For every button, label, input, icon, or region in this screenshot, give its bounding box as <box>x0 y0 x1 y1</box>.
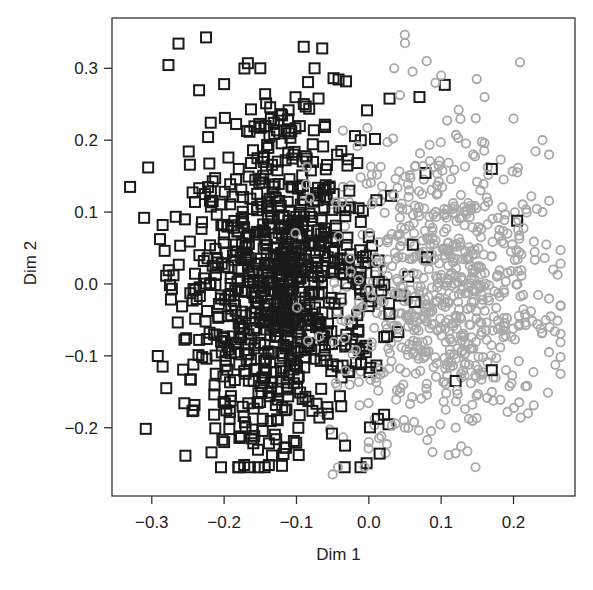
square-marker <box>160 246 170 256</box>
square-marker <box>295 410 305 420</box>
circle-marker <box>387 357 395 365</box>
square-marker <box>206 118 216 128</box>
square-marker <box>184 146 194 156</box>
circle-marker <box>355 378 363 386</box>
square-marker <box>190 197 200 207</box>
circle-marker <box>443 116 451 124</box>
square-marker <box>210 423 220 433</box>
circle-marker <box>457 191 465 199</box>
square-marker <box>231 119 241 129</box>
plot-frame <box>112 18 575 496</box>
square-marker <box>190 314 200 324</box>
circle-marker <box>370 324 378 332</box>
circle-marker <box>454 106 462 114</box>
circle-marker <box>530 237 538 245</box>
circle-marker <box>531 147 539 155</box>
circle-marker <box>328 470 336 478</box>
x-tick-label: 0.1 <box>429 513 453 532</box>
x-axis-label: Dim 1 <box>316 545 360 564</box>
circle-marker <box>471 152 479 160</box>
circle-marker <box>482 336 490 344</box>
circle-marker <box>502 277 510 285</box>
y-tick-label: −0.2 <box>64 419 98 438</box>
circle-marker <box>378 182 386 190</box>
circle-marker <box>425 265 433 273</box>
circle-marker <box>427 427 435 435</box>
x-tick-label: 0.0 <box>357 513 381 532</box>
square-marker <box>316 384 326 394</box>
square-marker <box>163 60 173 70</box>
circle-marker <box>530 401 538 409</box>
square-marker <box>309 125 319 135</box>
square-marker <box>209 410 219 420</box>
square-marker <box>194 85 204 95</box>
circle-marker <box>393 184 401 192</box>
square-marker <box>216 462 226 472</box>
circle-marker <box>383 440 391 448</box>
square-marker <box>331 221 341 231</box>
circle-marker <box>401 39 409 47</box>
square-marker <box>201 317 211 327</box>
circle-marker <box>364 399 372 407</box>
square-marker <box>185 237 195 247</box>
square-marker <box>299 42 309 52</box>
square-marker <box>308 139 318 149</box>
circle-marker <box>524 409 532 417</box>
circle-marker <box>488 238 496 246</box>
square-marker <box>125 182 135 192</box>
y-tick-label: 0.2 <box>74 131 98 150</box>
circle-marker <box>461 162 469 170</box>
square-marker <box>336 401 346 411</box>
square-marker <box>207 447 217 457</box>
circle-marker <box>529 368 537 376</box>
circle-marker <box>391 175 399 183</box>
square-marker <box>173 317 183 327</box>
circle-marker <box>367 162 375 170</box>
square-marker <box>440 80 450 90</box>
y-tick-label: 0.1 <box>74 203 98 222</box>
square-marker <box>143 163 153 173</box>
circle-marker <box>396 91 404 99</box>
circle-marker <box>516 58 524 66</box>
square-marker <box>314 94 324 104</box>
circle-marker <box>410 418 418 426</box>
square-marker <box>174 260 184 270</box>
square-marker <box>220 113 230 123</box>
square-marker <box>277 461 287 471</box>
circle-marker <box>545 197 553 205</box>
circle-marker <box>374 386 382 394</box>
circle-marker <box>439 397 447 405</box>
x-tick-label: −0.2 <box>207 513 241 532</box>
x-tick-label: −0.1 <box>280 513 314 532</box>
circle-marker <box>463 447 471 455</box>
circle-marker <box>519 224 527 232</box>
square-marker <box>180 451 190 461</box>
circle-marker <box>442 389 450 397</box>
square-marker <box>178 365 188 375</box>
circle-marker <box>497 155 505 163</box>
square-marker <box>255 63 265 73</box>
square-marker <box>244 172 254 182</box>
square-marker <box>356 217 366 227</box>
circle-marker <box>462 139 470 147</box>
circle-marker <box>422 57 430 65</box>
square-marker <box>153 351 163 361</box>
circle-marker <box>437 71 445 79</box>
circle-marker <box>556 259 564 267</box>
circle-marker <box>556 246 564 254</box>
circle-marker <box>341 222 349 230</box>
circle-marker <box>401 31 409 39</box>
y-tick-label: 0.3 <box>74 59 98 78</box>
square-marker <box>267 450 277 460</box>
circle-marker <box>373 170 381 178</box>
y-tick-label: 0.0 <box>74 275 98 294</box>
square-marker <box>175 241 185 251</box>
square-marker <box>335 391 345 401</box>
square-marker <box>219 79 229 89</box>
circle-marker <box>480 93 488 101</box>
x-tick-label: −0.3 <box>135 513 169 532</box>
circle-marker <box>408 67 416 75</box>
square-marker <box>234 164 244 174</box>
square-marker <box>174 39 184 49</box>
circle-marker <box>545 295 553 303</box>
